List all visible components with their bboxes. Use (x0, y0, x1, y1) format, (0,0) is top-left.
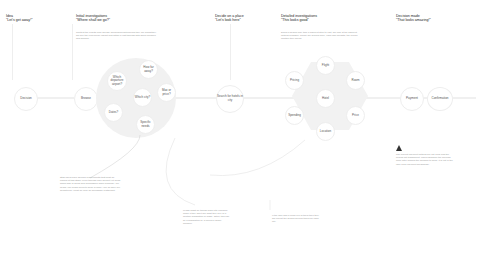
annotation-initial: Leads might be thrown back into research… (183, 209, 231, 225)
warning-triangle-icon (396, 145, 402, 151)
annotation-arcs (0, 0, 479, 254)
customer-journey-diagram: Idea "Let's get away!" Initial investiga… (0, 0, 479, 254)
annotation-decision: The current payment options are not clea… (396, 153, 454, 166)
annotation-browse: Staff users have specific requirements t… (60, 176, 122, 192)
annotation-search: If the user had a clean run of them then… (272, 214, 322, 224)
